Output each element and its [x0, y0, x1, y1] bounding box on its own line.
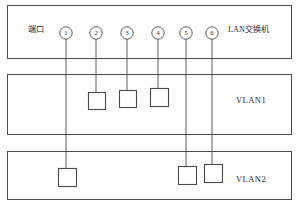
port-3-number: 3 — [121, 27, 133, 39]
vlan2-host-5[interactable] — [179, 167, 197, 185]
port-4-number: 4 — [152, 27, 164, 39]
vlan2-label: VLAN2 — [236, 174, 266, 184]
port-2-number: 2 — [90, 27, 102, 39]
vlan1-host-2[interactable] — [89, 93, 106, 110]
vlan-diagram: 端口 LAN交换机 VLAN1 VLAN2 123456 — [0, 0, 301, 215]
port-1-number: 1 — [60, 27, 72, 39]
vlan1-label: VLAN1 — [236, 95, 266, 105]
port-title-label: 端口 — [28, 22, 45, 34]
port-6-number: 6 — [206, 27, 218, 39]
vlan2-host-1[interactable] — [59, 169, 77, 187]
port-5-number: 5 — [180, 27, 192, 39]
host-nodes-layer — [59, 89, 223, 187]
vlan2-host-6[interactable] — [205, 165, 223, 183]
vlan1-host-4[interactable] — [151, 89, 169, 107]
lan-switch-label: LAN交换机 — [228, 22, 269, 34]
port-circles-layer — [60, 27, 218, 39]
vlan1-host-3[interactable] — [120, 91, 137, 108]
